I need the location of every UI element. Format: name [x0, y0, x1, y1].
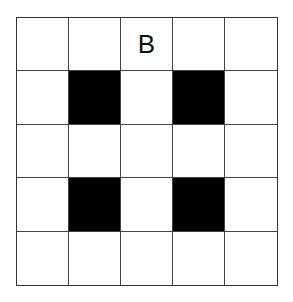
- puzzle-grid: B: [16, 17, 278, 286]
- empty-cell: [173, 18, 225, 71]
- filled-cell: [173, 71, 225, 124]
- empty-cell: [121, 71, 173, 124]
- empty-cell: [69, 18, 121, 71]
- empty-cell: [121, 125, 173, 178]
- empty-cell: [121, 232, 173, 285]
- empty-cell: [69, 125, 121, 178]
- empty-cell: [17, 125, 69, 178]
- empty-cell: [225, 125, 277, 178]
- empty-cell: [225, 71, 277, 124]
- empty-cell: [225, 178, 277, 231]
- label-cell: B: [121, 18, 173, 71]
- empty-cell: [173, 125, 225, 178]
- empty-cell: [17, 178, 69, 231]
- filled-cell: [69, 178, 121, 231]
- empty-cell: [17, 18, 69, 71]
- empty-cell: [225, 232, 277, 285]
- empty-cell: [121, 178, 173, 231]
- empty-cell: [17, 232, 69, 285]
- empty-cell: [225, 18, 277, 71]
- filled-cell: [69, 71, 121, 124]
- empty-cell: [173, 232, 225, 285]
- empty-cell: [17, 71, 69, 124]
- empty-cell: [69, 232, 121, 285]
- filled-cell: [173, 178, 225, 231]
